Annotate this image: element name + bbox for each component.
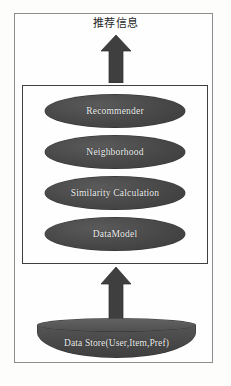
datastore-cylinder-top bbox=[37, 318, 196, 332]
data-input-arrow-icon bbox=[100, 267, 132, 319]
node-similarity-calculation-label: Similarity Calculation bbox=[71, 188, 160, 198]
datastore-cylinder[interactable]: Data Store(User,Item,Pref) bbox=[37, 318, 196, 360]
node-recommender-label: Recommender bbox=[86, 106, 144, 116]
datastore-label: Data Store(User,Item,Pref) bbox=[37, 338, 196, 348]
node-neighborhood[interactable]: Neighborhood bbox=[45, 135, 186, 169]
node-datamodel-label: DataModel bbox=[93, 229, 138, 239]
recommendation-output-label: 推荐信息 bbox=[0, 14, 231, 30]
recommendation-engine-box: Recommender Neighborhood Similarity Calc… bbox=[22, 85, 208, 264]
node-datamodel[interactable]: DataModel bbox=[45, 217, 186, 251]
diagram-canvas: 推荐信息 Recommender Neighborhood Similarity… bbox=[0, 0, 231, 386]
node-neighborhood-label: Neighborhood bbox=[86, 147, 143, 157]
node-recommender[interactable]: Recommender bbox=[45, 94, 186, 128]
node-similarity-calculation[interactable]: Similarity Calculation bbox=[45, 176, 186, 210]
recommendation-output-arrow-icon bbox=[100, 35, 132, 83]
